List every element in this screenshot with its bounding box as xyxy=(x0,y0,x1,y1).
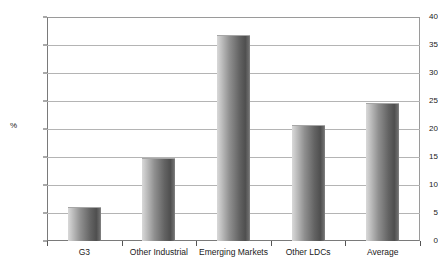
x-tick-mark xyxy=(345,241,346,246)
x-axis-category-label: Average xyxy=(367,248,399,257)
x-tick-mark xyxy=(47,241,48,246)
x-tick-mark xyxy=(196,241,197,246)
x-tick-mark xyxy=(271,241,272,246)
bar-series xyxy=(47,17,420,241)
bar xyxy=(68,207,101,241)
x-tick-mark xyxy=(122,241,123,246)
bar xyxy=(366,103,399,241)
bar xyxy=(217,35,250,241)
y-axis-title: % xyxy=(10,122,17,130)
x-axis-category-label: Other LDCs xyxy=(286,248,331,257)
x-tick-mark xyxy=(420,241,421,246)
bar xyxy=(142,158,175,241)
bar-chart: % 0510152025303540 G3Other IndustrialEme… xyxy=(0,0,438,271)
x-axis-category-label: G3 xyxy=(79,248,90,257)
bar xyxy=(292,125,325,241)
x-axis-category-label: Other Industrial xyxy=(130,248,188,257)
x-axis-category-label: Emerging Markets xyxy=(199,248,268,257)
